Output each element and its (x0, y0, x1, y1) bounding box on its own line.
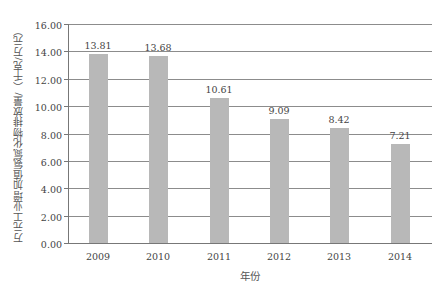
gridline (68, 79, 432, 80)
value-label: 7.21 (380, 130, 420, 141)
gridline (68, 161, 432, 162)
value-label: 13.68 (138, 42, 178, 53)
x-tick-label: 2011 (199, 251, 239, 262)
gridline (68, 134, 432, 135)
bar-2009 (89, 54, 108, 243)
value-label: 13.81 (78, 40, 118, 51)
bar-2011 (210, 98, 229, 243)
bar-chart: 万元工业增加值氨氮化物排放量/（千克/万元） 年份 0.002.004.006.… (0, 0, 443, 292)
x-tick-label: 2009 (78, 251, 118, 262)
gridline (68, 188, 432, 189)
y-tick-label: 4.00 (22, 184, 62, 195)
bar-2013 (330, 128, 349, 243)
value-label: 10.61 (199, 84, 239, 95)
gridline (68, 216, 432, 217)
y-tick-label: 0.00 (22, 239, 62, 250)
value-label: 9.09 (259, 105, 299, 116)
gridline (68, 106, 432, 107)
y-tick-label: 2.00 (22, 212, 62, 223)
x-tick-label: 2013 (319, 251, 359, 262)
x-tick-label: 2012 (259, 251, 299, 262)
gridline (68, 51, 432, 52)
y-tick-label: 12.00 (22, 75, 62, 86)
y-tick-label: 6.00 (22, 157, 62, 168)
x-axis-title: 年份 (230, 268, 270, 283)
gridline (68, 24, 432, 25)
y-tick-label: 14.00 (22, 47, 62, 58)
gridline (68, 243, 432, 244)
y-axis-line (68, 24, 69, 244)
bar-2014 (391, 144, 410, 243)
y-tick-label: 8.00 (22, 130, 62, 141)
y-tick-label: 16.00 (22, 20, 62, 31)
x-tick-label: 2010 (138, 251, 178, 262)
value-label: 8.42 (319, 114, 359, 125)
y-tick-label: 10.00 (22, 102, 62, 113)
x-tick-label: 2014 (380, 251, 420, 262)
bar-2012 (270, 119, 289, 243)
bar-2010 (149, 56, 168, 243)
